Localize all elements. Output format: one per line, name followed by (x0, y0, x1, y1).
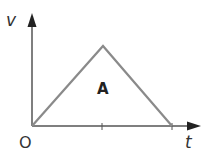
x-axis-label: t (185, 134, 192, 151)
area-label: A (97, 82, 109, 97)
x-axis-arrow-icon (187, 122, 201, 131)
y-axis-label: v (6, 12, 16, 29)
origin-label: O (19, 135, 32, 151)
y-axis-arrow-icon (28, 13, 37, 27)
